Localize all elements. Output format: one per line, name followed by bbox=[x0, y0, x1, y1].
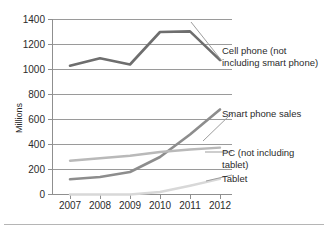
x-tick-label-2009: 2009 bbox=[119, 200, 142, 211]
y-tick-label-0: 0 bbox=[39, 189, 45, 200]
series-label-pc-line2: tablet) bbox=[222, 159, 248, 170]
series-label-tablet: Tablet bbox=[222, 173, 248, 184]
x-tick-label-2012: 2012 bbox=[209, 200, 232, 211]
y-tick-label-1200: 1200 bbox=[23, 39, 46, 50]
x-tick-label-2011: 2011 bbox=[179, 200, 201, 211]
x-tick-label-2010: 2010 bbox=[149, 200, 172, 211]
series-label-cell-phone-line1: Cell phone (not bbox=[222, 45, 287, 56]
series-label-cell-phone-line2: including smart phone) bbox=[222, 57, 318, 68]
y-tick-label-1000: 1000 bbox=[23, 64, 46, 75]
chart-canvas: 1400 1200 1000 800 600 400 200 0 2007 20… bbox=[0, 0, 328, 233]
y-axis-title: Millions bbox=[14, 103, 24, 134]
gridlines bbox=[52, 20, 232, 170]
series-line-pc bbox=[70, 148, 220, 161]
y-tick-label-800: 800 bbox=[28, 89, 45, 100]
y-axis-labels: 1400 1200 1000 800 600 400 200 0 bbox=[23, 14, 46, 200]
series-line-cell-phone bbox=[70, 31, 220, 65]
y-tick-label-600: 600 bbox=[28, 114, 45, 125]
y-tick-label-200: 200 bbox=[28, 164, 45, 175]
series-labels: Cell phone (not including smart phone) S… bbox=[222, 45, 318, 184]
y-axis-ticks bbox=[48, 20, 52, 195]
x-tick-label-2008: 2008 bbox=[89, 200, 112, 211]
x-tick-label-2007: 2007 bbox=[59, 200, 82, 211]
leader-line-cell-phone bbox=[191, 22, 222, 61]
line-chart: 1400 1200 1000 800 600 400 200 0 2007 20… bbox=[0, 0, 328, 233]
series-label-smart-phone: Smart phone sales bbox=[222, 108, 301, 119]
x-axis-labels: 2007 2008 2009 2010 2011 2012 bbox=[59, 200, 232, 211]
series-lines bbox=[70, 31, 220, 194]
y-tick-label-1400: 1400 bbox=[23, 14, 46, 25]
series-label-pc-line1: PC (not including bbox=[222, 147, 294, 158]
y-tick-label-400: 400 bbox=[28, 139, 45, 150]
series-line-tablet bbox=[70, 179, 220, 195]
